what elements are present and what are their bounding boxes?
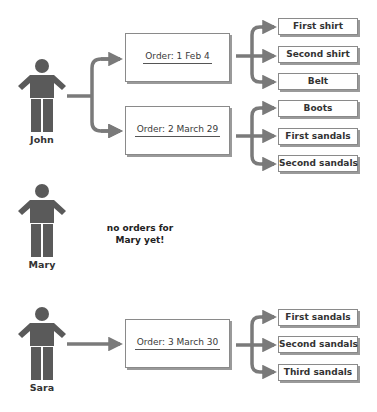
order-label: Order: 2 March 29 — [135, 124, 221, 137]
no-orders-note: no orders for Mary yet! — [100, 222, 180, 246]
customer-john: John — [16, 58, 68, 148]
item-box: First sandals — [278, 128, 358, 145]
note-line-1: no orders for — [100, 222, 180, 234]
customer-orders-diagram: John Mary no orders for Mary yet! — [0, 0, 377, 412]
person-icon — [16, 58, 68, 134]
item-box: Second sandals — [278, 155, 358, 172]
item-box: Third sandals — [278, 364, 358, 381]
person-icon — [16, 306, 68, 382]
customer-sara: Sara — [16, 306, 68, 396]
order3-connector — [236, 317, 274, 372]
order-box-3: Order: 3 March 30 — [125, 319, 230, 368]
order-box-1: Order: 1 Feb 4 — [125, 33, 230, 82]
item-box: Second sandals — [278, 336, 358, 353]
item-box: Second shirt — [278, 46, 358, 63]
item-box: Boots — [278, 100, 358, 117]
order-label: Order: 3 March 30 — [135, 337, 221, 350]
john-connector — [67, 59, 120, 131]
customer-name: Mary — [6, 259, 78, 270]
customer-name: John — [6, 134, 78, 145]
item-box: First shirt — [278, 18, 358, 35]
item-box: First sandals — [278, 309, 358, 326]
order-label: Order: 1 Feb 4 — [143, 51, 211, 64]
customer-mary: Mary — [16, 183, 68, 273]
note-line-2: Mary yet! — [100, 234, 180, 246]
customer-name: Sara — [6, 382, 78, 393]
person-icon — [16, 183, 68, 259]
order2-connector — [236, 108, 274, 164]
order1-connector — [236, 27, 274, 82]
order-box-2: Order: 2 March 29 — [125, 106, 230, 155]
item-box: Belt — [278, 73, 358, 90]
